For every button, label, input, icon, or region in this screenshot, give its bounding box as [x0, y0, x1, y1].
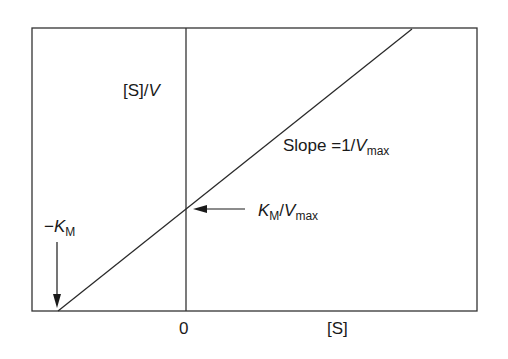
yint-sub1: M [269, 209, 279, 223]
yint-sub2: max [295, 209, 318, 223]
y-axis-label: [S]/V [123, 82, 160, 99]
km-var: K [54, 217, 65, 236]
yint-var1: K [258, 201, 269, 220]
yint-arrow-left-icon [193, 205, 245, 213]
km-minus: − [44, 217, 54, 236]
slope-sub: max [367, 144, 390, 158]
x-tick-zero: 0 [179, 320, 188, 337]
km-arrow-down-icon [53, 242, 61, 308]
hanes-woolf-plot [0, 0, 508, 359]
x-axis-label: [S] [327, 320, 348, 337]
slope-var: V [355, 136, 366, 155]
yint-annotation: KM/Vmax [258, 202, 318, 219]
y-axis-label-text: [S]/ [123, 81, 149, 100]
slope-annotation: Slope =1/Vmax [283, 137, 389, 154]
y-axis-label-var: V [149, 81, 160, 100]
yint-var2: V [284, 201, 295, 220]
km-annotation: −KM [44, 218, 75, 235]
km-sub: M [65, 225, 75, 239]
data-line [58, 29, 412, 311]
plot-frame [32, 28, 477, 311]
slope-text: Slope =1/ [283, 136, 355, 155]
